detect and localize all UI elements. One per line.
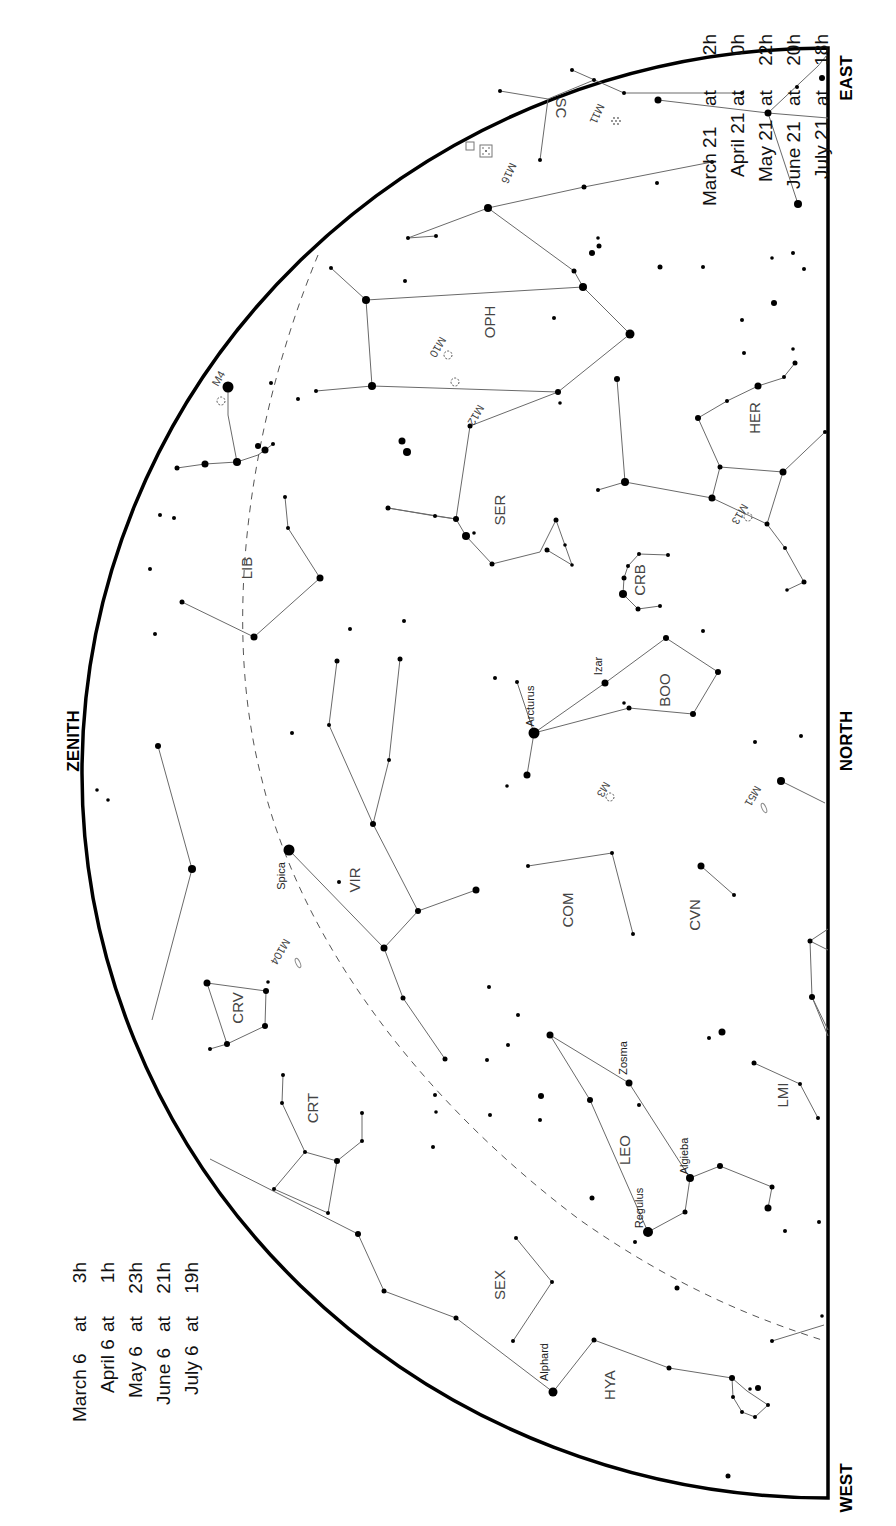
star-labels: Arcturus Izar Spica Zosma Algieba Regulu… <box>275 656 690 1380</box>
time-row: April 21 <box>727 113 748 177</box>
svg-text:at: at <box>125 1315 146 1332</box>
svg-text:21h: 21h <box>153 1262 174 1294</box>
ecliptic-line <box>243 255 822 1340</box>
constellation-lines <box>152 55 828 1417</box>
direction-north: NORTH <box>837 711 856 771</box>
label-vir: VIR <box>346 867 363 892</box>
dso-label-m16: M16 <box>499 161 519 185</box>
direction-west: WEST <box>837 1463 856 1513</box>
dso-label-m13: M13 <box>730 502 751 527</box>
dso-label-m11: M11 <box>587 102 607 126</box>
dso-label-m104: M104 <box>269 937 293 967</box>
dso-label-m10: M10 <box>428 335 449 360</box>
direction-east: EAST <box>837 55 856 101</box>
svg-text:2h: 2h <box>699 34 720 55</box>
dso-label-m3: M3 <box>595 780 613 799</box>
label-ser: SER <box>491 494 508 525</box>
svg-text:23h: 23h <box>125 1262 146 1294</box>
label-hya: HYA <box>601 1370 618 1400</box>
constellation-labels: SC OPH HER SER LIB CRB BOO VIR COM CVN C… <box>229 98 791 1400</box>
label-crv: CRV <box>229 992 246 1023</box>
label-lmi: LMI <box>774 1082 791 1107</box>
time-row: June 6 <box>153 1348 174 1405</box>
time-row: May 21 <box>755 120 776 182</box>
time-table-right: March 21 at 2h April 21 at 0h May 21 at … <box>699 34 832 206</box>
svg-text:22h: 22h <box>755 34 776 66</box>
svg-text:at: at <box>755 89 776 106</box>
svg-text:at: at <box>97 1315 118 1332</box>
svg-text:at: at <box>783 89 804 106</box>
label-sco: SC <box>553 98 570 119</box>
svg-text:at: at <box>69 1315 90 1332</box>
svg-text:3h: 3h <box>69 1262 90 1283</box>
svg-text:at: at <box>153 1315 174 1332</box>
svg-text:at: at <box>811 89 832 106</box>
dso-label-m51: M51 <box>743 784 764 809</box>
label-sex: SEX <box>491 1270 508 1300</box>
label-boo: BOO <box>656 673 673 706</box>
label-spica: Spica <box>275 861 287 889</box>
time-row: May 6 <box>125 1346 146 1398</box>
time-row: July 6 <box>181 1345 202 1395</box>
stars <box>95 68 827 1479</box>
label-crb: CRB <box>631 564 648 596</box>
time-table-left: March 6 at 3h April 6 at 1h May 6 at 23h… <box>69 1262 202 1422</box>
label-regulus: Regulus <box>633 1187 645 1228</box>
time-row: June 21 <box>783 121 804 189</box>
label-her: HER <box>746 402 763 434</box>
time-row: March 6 <box>69 1353 90 1422</box>
label-lib: LIB <box>238 557 255 580</box>
svg-text:at: at <box>727 89 748 106</box>
time-row: March 21 <box>699 127 720 206</box>
time-row: July 21 <box>811 119 832 179</box>
label-alphard: Alphard <box>538 1343 550 1381</box>
label-oph: OPH <box>481 306 498 339</box>
label-crt: CRT <box>304 1093 321 1124</box>
star-chart: M11 M16 M10 M12 M4 M13 M3 M51 M104 SC OP… <box>0 0 896 1526</box>
svg-text:1h: 1h <box>97 1262 118 1283</box>
deep-sky-objects <box>217 117 768 968</box>
svg-text:18h: 18h <box>811 34 832 66</box>
label-algieba: Algieba <box>678 1137 690 1175</box>
time-row: April 6 <box>97 1339 118 1393</box>
label-izar: Izar <box>592 656 604 675</box>
label-zosma: Zosma <box>617 1040 629 1075</box>
svg-text:19h: 19h <box>181 1262 202 1294</box>
svg-text:at: at <box>181 1315 202 1332</box>
label-cvn: CVN <box>686 899 703 931</box>
label-arcturus: Arcturus <box>524 685 536 726</box>
svg-text:20h: 20h <box>783 34 804 66</box>
direction-zenith: ZENITH <box>64 710 83 771</box>
label-leo: LEO <box>616 1135 633 1165</box>
label-com: COM <box>559 893 576 928</box>
svg-text:0h: 0h <box>727 34 748 55</box>
svg-text:at: at <box>699 89 720 106</box>
